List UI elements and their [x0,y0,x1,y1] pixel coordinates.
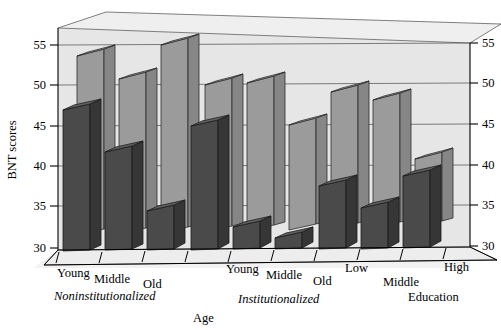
bar-back-inst-middle [247,72,285,231]
x-group-labels: Noninstitutionalized Institutionalized E… [53,289,459,306]
bar-front-edu-high [403,165,441,248]
cat-label-edu-low: Low [345,261,368,275]
cat-label-noninst-young: Young [57,266,91,280]
y-tick-right-50: 50 [482,76,495,90]
y-tick-left-40: 40 [34,159,47,173]
y-tick-right-35: 35 [482,198,495,212]
cat-label-inst-young: Young [226,262,260,276]
bar-front-edu-low [319,175,357,249]
cat-label-inst-middle: Middle [266,268,303,282]
y-tick-left-55: 55 [34,38,47,52]
y-axis-left: 55 50 45 40 35 30 [34,28,59,255]
cat-label-inst-old: Old [313,274,333,288]
y-tick-right-55: 55 [482,36,495,50]
y-tick-left-45: 45 [34,119,47,133]
y-tick-left-50: 50 [34,78,47,92]
y-tick-right-40: 40 [482,158,495,172]
cat-label-edu-middle: Middle [383,275,420,289]
bar-chart-3d: 55 50 45 40 35 30 55 50 45 40 35 30 [0,0,501,330]
y-tick-left-35: 35 [34,199,47,213]
y-tick-right-45: 45 [482,117,495,131]
y-tick-left-30: 30 [34,241,47,255]
bar-front-noninst-middle [105,141,143,250]
group-label-institutionalized: Institutionalized [237,292,320,306]
y-axis-right: 55 50 45 40 35 30 [470,36,495,253]
cat-label-edu-high: High [444,260,470,274]
group-label-noninstitutionalized: Noninstitutionalized [53,289,156,303]
bar-front-inst-young [191,115,229,250]
group-label-education: Education [408,290,459,304]
chart-canvas: 55 50 45 40 35 30 55 50 45 40 35 30 [0,0,501,330]
cat-label-noninst-middle: Middle [94,272,131,286]
y-axis-title: BNT scores [5,120,19,179]
bar-front-noninst-young [63,99,101,251]
x-axis-title: Age [193,311,214,325]
y-tick-right-30: 30 [482,239,495,253]
